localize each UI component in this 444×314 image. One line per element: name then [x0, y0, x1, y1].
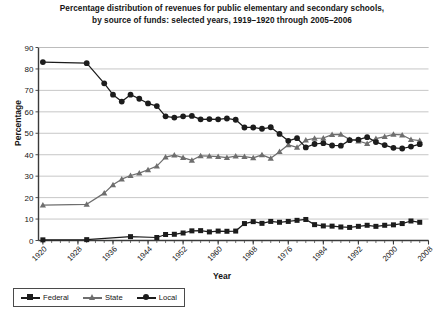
data-point — [355, 137, 361, 143]
y-tick-label-50: 50 — [25, 129, 34, 138]
data-point — [285, 138, 291, 144]
data-point — [312, 222, 317, 227]
y-tick-label-70: 70 — [25, 86, 34, 95]
data-point — [259, 221, 264, 226]
x-tick-label-1952: 1952 — [170, 245, 189, 264]
series-line — [43, 219, 420, 239]
x-tick-label-1976: 1976 — [276, 245, 295, 264]
x-axis-label: Year — [0, 271, 444, 281]
x-tick-label-1984: 1984 — [311, 244, 330, 263]
series-local — [40, 59, 423, 151]
legend-marker-circle-icon — [137, 293, 156, 302]
data-point — [400, 221, 405, 226]
data-point — [277, 220, 282, 225]
series-line — [43, 134, 420, 205]
data-point — [198, 228, 203, 233]
data-point — [145, 101, 151, 107]
data-point — [320, 140, 326, 146]
chart-container: Percentage distribution of revenues for … — [0, 0, 444, 314]
data-point — [84, 60, 90, 66]
data-point — [417, 141, 423, 147]
y-tick-label-20: 20 — [25, 194, 34, 203]
data-point — [128, 234, 133, 239]
legend-label-federal: Federal — [43, 293, 69, 302]
data-point — [365, 223, 370, 228]
data-point — [295, 218, 300, 223]
data-point — [215, 116, 221, 122]
data-point — [110, 92, 116, 98]
data-point — [338, 224, 343, 229]
x-tick-label-1968: 1968 — [240, 245, 259, 264]
data-point — [181, 230, 186, 235]
data-point — [347, 225, 352, 230]
data-point — [189, 228, 194, 233]
data-point — [259, 126, 265, 132]
x-tick-label-1936: 1936 — [100, 245, 119, 264]
y-tick-label-40: 40 — [25, 151, 34, 160]
legend-item-local: Local — [137, 293, 177, 302]
data-point — [84, 237, 89, 242]
data-point — [312, 141, 318, 147]
data-point — [154, 103, 160, 109]
data-point — [391, 222, 396, 227]
data-point — [172, 232, 177, 237]
data-point — [198, 116, 204, 122]
data-point — [119, 99, 125, 105]
data-point — [347, 137, 353, 143]
series-line — [43, 62, 420, 148]
data-point — [180, 113, 186, 119]
data-point — [163, 232, 168, 237]
data-point — [40, 59, 46, 65]
series-state — [40, 131, 423, 207]
x-tick-label-2000: 2000 — [381, 244, 400, 263]
data-point — [189, 113, 195, 119]
x-tick-label-2008: 2008 — [416, 245, 435, 264]
data-point — [373, 224, 378, 229]
data-point — [110, 182, 116, 188]
x-tick-label-1944: 1944 — [135, 244, 154, 263]
plot-svg: 0102030405060708090192019281936194419521… — [0, 0, 444, 314]
data-point — [207, 229, 212, 234]
data-point — [303, 217, 308, 222]
data-point — [154, 235, 159, 240]
x-tick-label-1928: 1928 — [65, 245, 84, 264]
data-point — [233, 229, 238, 234]
data-point — [250, 125, 256, 131]
data-point — [101, 80, 107, 86]
data-point — [251, 219, 256, 224]
data-point — [330, 224, 335, 229]
data-point — [242, 125, 248, 131]
data-point — [233, 117, 239, 123]
data-point — [321, 223, 326, 228]
data-point — [40, 237, 45, 242]
data-point — [163, 113, 169, 119]
y-tick-label-10: 10 — [25, 215, 34, 224]
data-point — [128, 92, 134, 98]
y-tick-label-30: 30 — [25, 172, 34, 181]
legend-label-state: State — [105, 293, 123, 302]
data-point — [382, 223, 387, 228]
y-axis-label: Percentage — [13, 83, 23, 163]
data-point — [224, 229, 229, 234]
x-tick-label-1992: 1992 — [346, 245, 365, 264]
data-point — [294, 135, 300, 141]
data-point — [417, 220, 422, 225]
data-point — [408, 144, 414, 150]
data-point — [206, 116, 212, 122]
y-tick-label-60: 60 — [25, 108, 34, 117]
legend-item-federal: Federal — [21, 293, 69, 302]
legend-label-local: Local — [159, 293, 177, 302]
data-point — [268, 124, 274, 130]
data-point — [373, 139, 379, 145]
legend-item-state: State — [83, 293, 123, 302]
y-tick-label-0: 0 — [29, 237, 34, 246]
data-point — [216, 229, 221, 234]
legend-marker-triangle-icon — [83, 293, 102, 302]
data-point — [338, 143, 344, 149]
data-point — [356, 224, 361, 229]
data-point — [242, 221, 247, 226]
data-point — [382, 142, 388, 148]
data-point — [286, 219, 291, 224]
data-point — [399, 146, 405, 152]
data-point — [224, 116, 230, 122]
